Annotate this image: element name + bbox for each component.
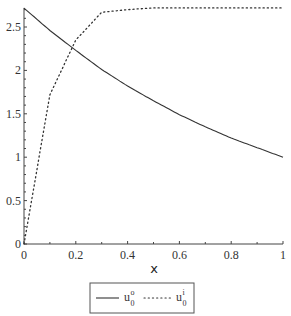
x-tick-label: 0.8 <box>224 248 239 262</box>
legend-label-2: u <box>176 290 182 304</box>
x-tick-label: 0.4 <box>120 248 135 262</box>
x-tick-label: 0.2 <box>68 248 83 262</box>
x-tick-label: 0 <box>21 248 27 262</box>
legend-label-1: u <box>124 290 130 304</box>
axes: 00.20.40.60.8100.511.522.5 <box>6 8 286 262</box>
y-tick-label: 0 <box>15 237 21 251</box>
legend: uo0ui0 <box>90 283 194 313</box>
series-group <box>24 8 283 244</box>
y-tick-label: 0.5 <box>6 194 21 208</box>
x-tick-label: 1 <box>280 248 286 262</box>
y-tick-label: 1.5 <box>6 107 21 121</box>
x-tick-label: 0.6 <box>172 248 187 262</box>
legend-sup: o <box>131 288 135 297</box>
line-chart: 00.20.40.60.8100.511.522.5 x uo0ui0 <box>0 0 291 316</box>
legend-sub: 0 <box>183 299 187 308</box>
y-tick-label: 2.5 <box>6 20 21 34</box>
series-line-2 <box>24 8 283 244</box>
x-axis-title: x <box>150 261 158 276</box>
legend-sub: 0 <box>131 299 135 308</box>
y-tick-label: 2 <box>15 63 21 77</box>
y-tick-label: 1 <box>15 150 21 164</box>
series-line-1 <box>24 8 283 157</box>
